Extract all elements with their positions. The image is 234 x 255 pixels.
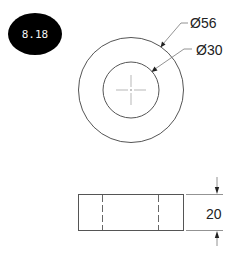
center-mark-icon: [116, 75, 146, 105]
inner-diameter-label: Ø30: [196, 42, 223, 58]
outer-diameter-label: Ø56: [190, 15, 217, 31]
arrow-up-icon: [215, 231, 219, 238]
arrowhead-icon: [152, 67, 158, 73]
technical-drawing: 8.18 Ø56 Ø30: [0, 0, 234, 255]
figure-badge: 8.18: [8, 13, 62, 55]
outer-diameter-leader: [161, 23, 189, 48]
height-label: 20: [206, 206, 222, 222]
front-view: 20: [79, 177, 224, 246]
arrow-down-icon: [215, 187, 219, 194]
inner-diameter-leader: [152, 49, 193, 72]
top-view: Ø56 Ø30: [79, 15, 223, 143]
figure-number: 8.18: [22, 28, 49, 41]
washer-side-profile: [79, 195, 184, 231]
